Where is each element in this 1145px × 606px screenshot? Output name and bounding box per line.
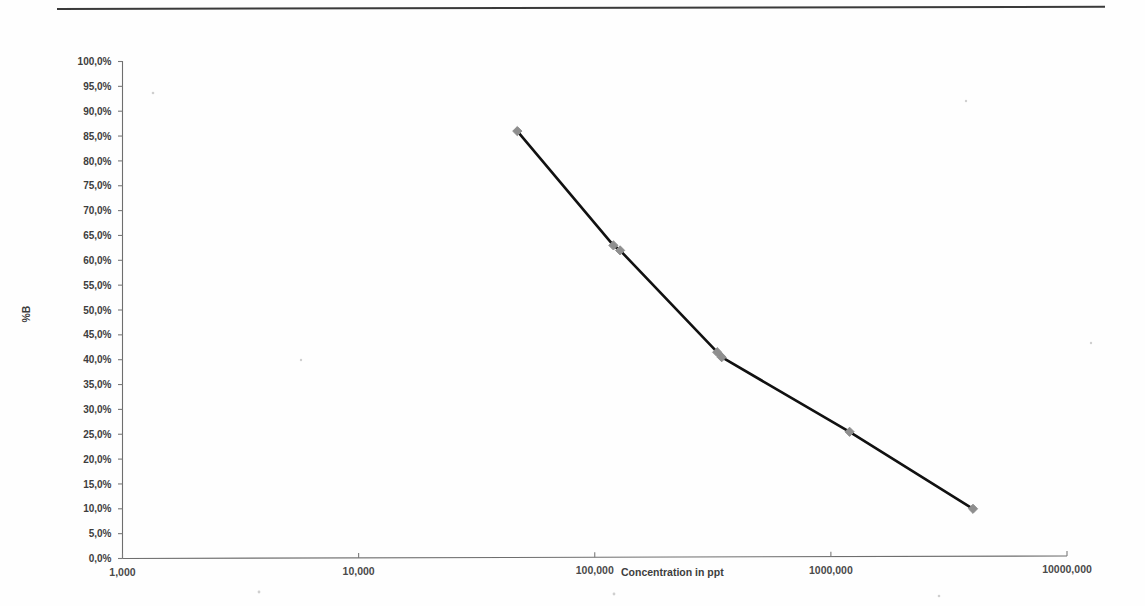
- y-axis-ticks: 0,0%5,0%10,0%15,0%20,0%25,0%30,0%35,0%40…: [78, 56, 123, 564]
- y-tick-label: 35,0%: [83, 379, 111, 390]
- y-tick-label: 25,0%: [83, 429, 111, 440]
- x-axis-title: Concentration in ppt: [621, 566, 724, 578]
- scan-speck: [938, 595, 941, 598]
- scan-speck: [1090, 342, 1092, 344]
- y-tick-label: 5,0%: [89, 528, 112, 539]
- y-tick-label: 55,0%: [83, 280, 111, 291]
- y-axis-title: %B: [20, 305, 32, 322]
- y-tick-label: 95,0%: [83, 81, 111, 92]
- scan-speck: [152, 92, 155, 95]
- y-tick-label: 50,0%: [83, 305, 111, 316]
- y-tick-label: 60,0%: [83, 255, 111, 266]
- y-tick-label: 20,0%: [83, 454, 111, 465]
- y-tick-label: 40,0%: [83, 354, 111, 365]
- y-tick-label: 75,0%: [83, 180, 111, 191]
- scanned-page: 0,0%5,0%10,0%15,0%20,0%25,0%30,0%35,0%40…: [0, 0, 1145, 606]
- x-tick-label: 1000,000: [809, 564, 853, 576]
- x-tick-label: 10000,000: [1042, 563, 1092, 575]
- y-tick-label: 85,0%: [83, 131, 111, 142]
- scan-speck: [613, 593, 616, 596]
- x-tick-label: 1,000: [109, 566, 135, 578]
- y-tick-label: 0,0%: [89, 553, 112, 564]
- y-tick-label: 30,0%: [83, 404, 111, 415]
- y-tick-label: 70,0%: [83, 205, 111, 216]
- scan-speck: [300, 359, 302, 361]
- x-tick-label: 10,000: [343, 565, 375, 577]
- y-tick-label: 10,0%: [83, 503, 111, 514]
- scan-speck: [965, 100, 967, 102]
- line-chart-plot: 0,0%5,0%10,0%15,0%20,0%25,0%30,0%35,0%40…: [0, 0, 1145, 606]
- y-tick-label: 65,0%: [83, 230, 111, 241]
- series-line: [517, 131, 973, 509]
- x-axis-ticks: 1,00010,000100,0001000,00010000,000: [109, 551, 1092, 578]
- y-tick-label: 80,0%: [83, 156, 111, 167]
- y-tick-label: 45,0%: [83, 329, 111, 340]
- x-tick-label: 100,000: [576, 564, 614, 576]
- chart-figure: 0,0%5,0%10,0%15,0%20,0%25,0%30,0%35,0%40…: [0, 0, 1145, 606]
- data-series-group: [513, 127, 978, 514]
- scan-speck: [258, 591, 261, 594]
- y-tick-label: 90,0%: [83, 106, 111, 117]
- axes: [123, 61, 1068, 559]
- y-tick-label: 15,0%: [83, 479, 111, 490]
- y-tick-label: 100,0%: [78, 56, 112, 67]
